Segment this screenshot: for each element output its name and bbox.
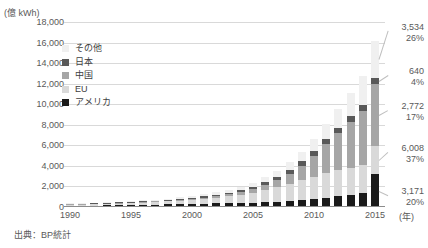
- annotation-percent: 37%: [401, 154, 424, 165]
- annotation-アメリカ: 3,17120%: [401, 186, 424, 208]
- annotation-percent: 20%: [401, 197, 424, 208]
- annotation-leader-line: [379, 75, 389, 82]
- annotation-value: 2,772: [401, 101, 424, 112]
- annotation-percent: 17%: [401, 112, 424, 123]
- annotation-leader-line: [379, 152, 389, 161]
- annotation-leader-line: [379, 110, 389, 116]
- chart-root: (億 kWh) 02,0004,0006,0008,00010,00012,00…: [0, 0, 428, 248]
- annotation-value: 640: [409, 66, 424, 77]
- annotation-その他: 3,53426%: [401, 22, 424, 44]
- annotation-EU: 6,00837%: [401, 143, 424, 165]
- annotation-percent: 4%: [409, 77, 424, 88]
- annotation-leader-line: [379, 191, 389, 196]
- annotation-leader-line: [378, 31, 388, 60]
- source-note: 出典：BP統計: [14, 228, 71, 241]
- annotation-value: 6,008: [401, 143, 424, 154]
- annotation-value: 3,534: [401, 22, 424, 33]
- annotation-中国: 2,77217%: [401, 101, 424, 123]
- annotation-日本: 6404%: [409, 66, 424, 88]
- annotation-percent: 26%: [401, 33, 424, 44]
- annotation-value: 3,171: [401, 186, 424, 197]
- value-annotations: 3,53426%6404%2,77217%6,00837%3,17120%: [0, 0, 428, 248]
